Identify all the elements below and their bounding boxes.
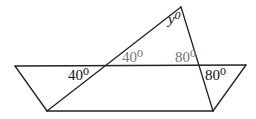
apex-angle-label: y⁰ xyxy=(166,11,181,27)
left-upper-angle-label: 40⁰ xyxy=(122,49,143,65)
right-upper-angle-label: 80⁰ xyxy=(175,49,196,65)
right-lower-angle-label: 80⁰ xyxy=(205,67,226,83)
triangle-left-side xyxy=(47,7,181,111)
geometry-diagram: y⁰ 40⁰ 40⁰ 80⁰ 80⁰ xyxy=(0,0,256,119)
trapezoid-left-edge xyxy=(15,66,47,111)
trapezoid-top-edge xyxy=(15,65,246,66)
left-lower-angle-label: 40⁰ xyxy=(68,67,89,83)
